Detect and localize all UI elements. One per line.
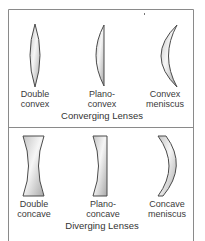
section-caption-converging: Converging Lenses xyxy=(61,110,143,121)
lens-label-double-convex: Double convex xyxy=(21,90,50,109)
lens-label-convex-meniscus: Convex meniscus xyxy=(146,90,184,109)
convex-meniscus-lens-icon xyxy=(161,25,177,87)
label-line2: convex xyxy=(21,100,50,110)
label-line2: concave xyxy=(17,210,51,220)
label-line2: meniscus xyxy=(148,210,186,220)
label-line2: meniscus xyxy=(146,100,184,110)
section-caption-diverging: Diverging Lenses xyxy=(65,220,138,231)
lens-label-plano-concave: Plano- concave xyxy=(86,200,120,219)
concave-meniscus-lens-icon xyxy=(158,136,176,196)
label-line2: concave xyxy=(86,210,120,220)
lens-label-concave-meniscus: Concave meniscus xyxy=(148,200,186,219)
lens-label-double-concave: Double concave xyxy=(17,200,51,219)
lens-label-plano-convex: Plano- convex xyxy=(88,90,117,109)
label-line2: convex xyxy=(88,100,117,110)
plano-concave-lens-icon xyxy=(93,136,107,196)
plano-convex-lens-icon xyxy=(96,25,104,86)
speck-artifact xyxy=(144,13,145,15)
double-convex-lens-icon xyxy=(30,24,40,87)
double-concave-lens-icon xyxy=(23,136,44,196)
